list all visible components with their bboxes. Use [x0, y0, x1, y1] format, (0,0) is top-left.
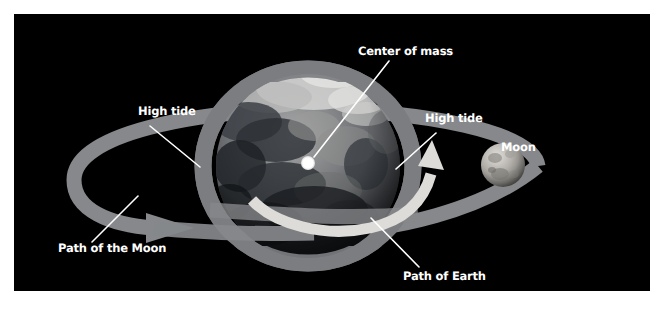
- label-path-of-the-moon: Path of the Moon: [58, 243, 166, 255]
- label-center-of-mass: Center of mass: [358, 46, 453, 58]
- diagram-canvas: Center of mass High tide High tide Moon …: [14, 14, 650, 291]
- label-high-tide-right: High tide: [425, 113, 483, 125]
- label-high-tide-left: High tide: [138, 106, 196, 118]
- label-moon: Moon: [501, 142, 536, 154]
- center-of-mass-dot: [301, 156, 315, 170]
- figure-root: Center of mass High tide High tide Moon …: [0, 0, 665, 310]
- label-path-of-earth: Path of Earth: [403, 271, 486, 283]
- high-tide-left-pointer-line: [150, 126, 200, 167]
